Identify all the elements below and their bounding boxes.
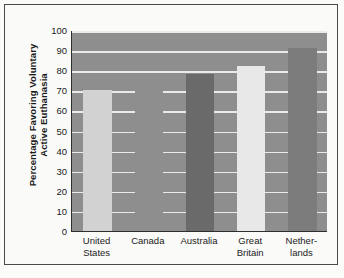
y-axis-tick-label: 70 xyxy=(41,86,67,96)
x-axis-tick-label: Canada xyxy=(122,235,173,247)
y-axis-tick-label: 50 xyxy=(41,127,67,137)
chart-figure: Percentage Favoring Voluntary Active Eut… xyxy=(0,0,344,278)
y-axis-tick-label: 30 xyxy=(41,167,67,177)
bar xyxy=(237,66,265,231)
y-axis-tick-label: 90 xyxy=(41,46,67,56)
y-axis-tick-labels: 0102030405060708090100 xyxy=(41,31,67,232)
x-axis-tick-labels: UnitedStatesCanadaAustraliaGreatBritainN… xyxy=(71,235,327,269)
x-axis-tick-label-line: States xyxy=(71,247,122,259)
x-axis-tick-label: GreatBritain xyxy=(225,235,276,259)
y-axis-tick-label: 80 xyxy=(41,66,67,76)
x-axis-tick-label-line: lands xyxy=(276,247,327,259)
y-axis-tick-label: 10 xyxy=(41,207,67,217)
x-axis-tick-label-line: Australia xyxy=(173,235,224,247)
x-axis-tick-label-line: United xyxy=(71,235,122,247)
x-axis-tick-label: UnitedStates xyxy=(71,235,122,259)
x-axis-tick-label-line: Nether- xyxy=(276,235,327,247)
y-axis-tick-label: 20 xyxy=(41,187,67,197)
y-axis-tick-label: 100 xyxy=(41,26,67,36)
y-axis-tick-label: 0 xyxy=(41,227,67,237)
x-axis-tick-label-line: Britain xyxy=(225,247,276,259)
x-axis-tick-label-line: Canada xyxy=(122,235,173,247)
bar xyxy=(186,74,214,231)
x-axis-tick-label-line: Great xyxy=(225,235,276,247)
x-axis-tick-label: Nether-lands xyxy=(276,235,327,259)
y-axis-tick-label: 40 xyxy=(41,147,67,157)
bar-series xyxy=(72,31,327,231)
y-axis-title-line-1: Percentage Favoring Voluntary xyxy=(27,44,39,187)
bar xyxy=(288,48,316,231)
chart-frame: Percentage Favoring Voluntary Active Eut… xyxy=(4,4,338,265)
bar xyxy=(83,90,111,231)
y-axis-tick-label: 60 xyxy=(41,106,67,116)
bar xyxy=(135,90,163,231)
x-axis-tick-label: Australia xyxy=(173,235,224,247)
plot-area xyxy=(71,31,327,232)
